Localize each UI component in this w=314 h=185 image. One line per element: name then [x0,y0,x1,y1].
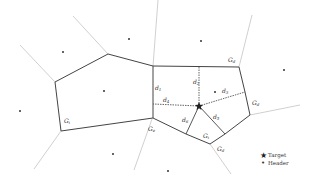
label-g-top-right: Gd [228,57,235,64]
label-d3: d3 [222,88,228,95]
header-points [19,38,285,172]
label-g-bottom: Gi [203,133,209,140]
dot-icon: • [258,159,268,167]
legend-label-target: Target [268,152,286,158]
label-d1: d1 [155,85,161,92]
legend-item-header: • Header [258,159,289,167]
label-d2: d2 [193,79,199,86]
legend: ★ Target • Header [258,151,289,167]
label-g-right: Gd [252,100,259,107]
label-d6: d6 [182,117,188,124]
label-d5: d5 [213,114,219,121]
label-d4: d4 [163,97,169,104]
label-g-lower-left: Ge [148,126,155,133]
legend-label-header: Header [268,160,289,166]
legend-item-target: ★ Target [258,151,289,159]
label-g-bottom-right: Gd [217,146,224,153]
label-g-left: Gi [64,118,70,125]
